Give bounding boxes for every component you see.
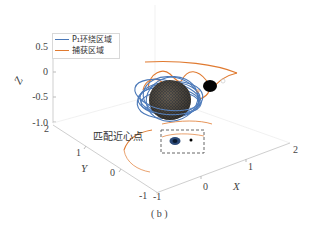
x-axis: -1 0 1 2 X: [153, 143, 298, 202]
legend-label: 捕获区域: [72, 45, 104, 56]
legend-swatch-orange: [55, 50, 69, 51]
legend-item-p1-orbit: P₁环绕区域: [53, 34, 119, 45]
periapsis-annotation: 匹配近心点: [93, 128, 143, 143]
x-axis-label: X: [232, 180, 241, 192]
figure-caption: ( b ): [151, 208, 168, 219]
y-axis-label: Y: [81, 162, 89, 174]
y-tick: -1: [139, 190, 147, 201]
z-tick: -0.5: [32, 91, 48, 102]
y-tick: 0: [110, 167, 115, 178]
z-axis: 0.5 0 -0.5 -1.0 Z: [11, 37, 56, 128]
x-tick: 1: [248, 161, 253, 172]
x-tick: -1: [153, 191, 161, 202]
z-tick: 0.5: [36, 41, 49, 52]
legend-swatch-blue: [55, 39, 69, 40]
x-tick: 2: [293, 144, 298, 155]
periapsis-box: [161, 130, 204, 153]
legend-item-capture: 捕获区域: [53, 45, 119, 56]
x-tick: 0: [203, 181, 208, 192]
legend-label: P₁环绕区域: [72, 34, 112, 45]
legend: P₁环绕区域 捕获区域: [52, 33, 120, 59]
z-axis-label: Z: [11, 74, 25, 86]
y-tick: 1: [76, 147, 81, 158]
z-tick: 0: [43, 66, 48, 77]
y-tick: 2: [44, 123, 49, 134]
plot-canvas: 0.5 0 -0.5 -1.0 Z 2 1 0 -1 Y -1 0 1 2 X: [0, 0, 313, 228]
